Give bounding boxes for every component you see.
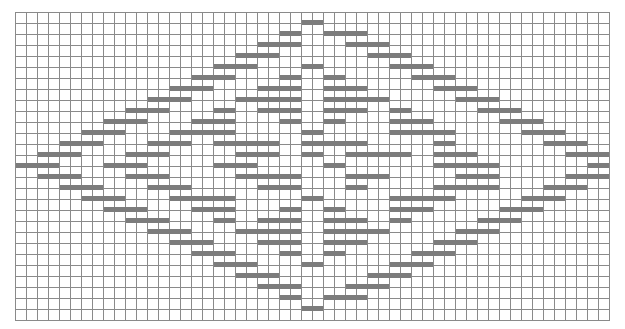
filled-bar — [390, 108, 411, 113]
filled-bar — [324, 218, 367, 223]
filled-bar — [280, 75, 301, 80]
filled-bar — [324, 31, 367, 36]
filled-bar — [236, 229, 301, 234]
filled-bar — [302, 306, 323, 311]
filled-bar — [500, 119, 543, 124]
filled-bar — [258, 185, 301, 190]
filled-bar — [170, 240, 213, 245]
filled-bar — [236, 174, 301, 179]
filled-bar — [280, 119, 301, 124]
filled-bar — [280, 251, 301, 256]
filled-bar — [214, 108, 235, 113]
filled-bar — [324, 163, 345, 168]
filled-bar — [258, 284, 301, 289]
filled-bar — [302, 141, 367, 146]
filled-bar — [434, 240, 477, 245]
filled-bar — [566, 152, 609, 157]
filled-bar — [302, 152, 323, 157]
filled-bar — [588, 163, 609, 168]
filled-bar — [192, 251, 235, 256]
filled-bar — [236, 273, 279, 278]
filled-bar — [390, 207, 433, 212]
filled-bar — [192, 119, 235, 124]
filled-bar — [434, 152, 477, 157]
filled-bar — [456, 229, 499, 234]
filled-bar — [126, 218, 169, 223]
filled-bar — [544, 185, 587, 190]
filled-bar — [170, 196, 235, 201]
filled-bar — [346, 174, 389, 179]
filled-bar — [566, 174, 609, 179]
filled-bar — [324, 75, 345, 80]
filled-bar — [126, 152, 169, 157]
filled-bar — [522, 130, 565, 135]
filled-bar — [368, 273, 411, 278]
filled-bar — [82, 196, 125, 201]
filled-bar — [280, 31, 301, 36]
filled-bar — [478, 108, 521, 113]
filled-bar — [104, 119, 147, 124]
filled-bar — [324, 108, 367, 113]
filled-bar — [214, 218, 235, 223]
filled-bar — [214, 141, 279, 146]
filled-bar — [258, 42, 301, 47]
filled-bar — [346, 185, 367, 190]
filled-bar — [236, 97, 301, 102]
filled-bar — [104, 207, 147, 212]
filled-bar — [258, 108, 301, 113]
filled-bar — [236, 53, 279, 58]
filled-bar — [302, 64, 323, 69]
filled-bar — [324, 86, 367, 91]
filled-bar — [148, 97, 191, 102]
filled-bar — [258, 240, 301, 245]
filled-bar — [324, 97, 389, 102]
filled-bar — [82, 130, 125, 135]
filled-bar — [104, 163, 147, 168]
filled-bar — [16, 163, 59, 168]
filled-bar — [214, 64, 257, 69]
filled-bar — [346, 152, 411, 157]
filled-bar — [324, 229, 389, 234]
filled-bar — [126, 108, 169, 113]
filled-bar — [236, 152, 279, 157]
weaving-draft-grid — [15, 12, 610, 321]
filled-bar — [148, 185, 191, 190]
filled-bar — [38, 174, 81, 179]
filled-bar — [214, 163, 257, 168]
filled-bar — [192, 75, 235, 80]
filled-bar — [60, 185, 103, 190]
filled-bar — [324, 207, 345, 212]
filled-bar — [390, 130, 455, 135]
filled-bar — [346, 284, 389, 289]
filled-bar — [456, 174, 499, 179]
filled-bar — [214, 262, 257, 267]
filled-bar — [522, 196, 565, 201]
filled-bar — [280, 295, 301, 300]
filled-bar — [412, 75, 455, 80]
filled-bar — [390, 262, 433, 267]
filled-bar — [192, 207, 235, 212]
filled-bar — [280, 207, 301, 212]
filled-bar — [170, 130, 235, 135]
filled-bar — [302, 20, 323, 25]
filled-bar — [324, 119, 345, 124]
filled-bar — [148, 141, 191, 146]
filled-bar — [434, 86, 477, 91]
filled-bar — [544, 141, 587, 146]
filled-bar — [324, 295, 367, 300]
filled-bar — [126, 174, 169, 179]
filled-bar — [324, 240, 367, 245]
filled-bar — [302, 130, 323, 135]
filled-bar — [258, 86, 301, 91]
filled-bar — [390, 218, 411, 223]
filled-bar — [434, 185, 499, 190]
filled-bar — [324, 251, 345, 256]
filled-bar — [390, 196, 455, 201]
filled-bar — [302, 196, 323, 201]
filled-bar — [390, 119, 433, 124]
filled-bar — [456, 97, 499, 102]
filled-bar — [148, 229, 191, 234]
filled-bar — [390, 64, 433, 69]
filled-bar — [170, 86, 213, 91]
filled-bar — [346, 42, 389, 47]
